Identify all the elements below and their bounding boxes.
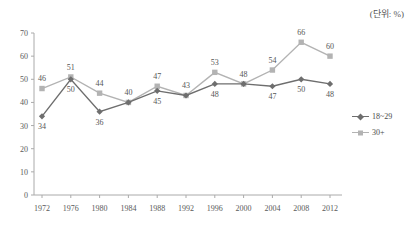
x-axis-tick-label: 1976 [63, 204, 79, 213]
data-point-label: 36 [96, 118, 104, 127]
data-point-marker[interactable] [269, 83, 275, 89]
x-axis-tick-label: 1972 [34, 204, 50, 213]
x-axis-tick-label: 2008 [293, 204, 309, 213]
x-axis-tick-label: 1988 [149, 204, 165, 213]
x-axis-tick-label: 2004 [264, 204, 280, 213]
y-axis-tick-label: 20 [20, 145, 28, 154]
y-axis-tick-label: 30 [20, 122, 28, 131]
data-point-label: 53 [211, 58, 219, 67]
y-axis-tick-label: 60 [20, 52, 28, 61]
y-axis-tick-label: 40 [20, 98, 28, 107]
data-point-marker[interactable] [39, 86, 44, 91]
data-point-label: 34 [38, 122, 46, 131]
legend-label-18-29: 18~29 [372, 112, 392, 121]
data-point-marker[interactable] [212, 70, 217, 75]
x-axis-tick-label: 1984 [120, 204, 136, 213]
line-chart: (단위: %) 01020304050607019721976198019841… [0, 0, 414, 229]
data-point-label: 40 [124, 88, 132, 97]
data-point-label: 43 [182, 81, 190, 90]
y-axis-tick-label: 10 [20, 168, 28, 177]
y-axis-tick-label: 0 [24, 191, 28, 200]
x-axis-tick-label: 1996 [207, 204, 223, 213]
x-axis-tick-label: 1980 [92, 204, 108, 213]
data-point-label: 54 [268, 56, 276, 65]
data-point-marker[interactable] [327, 53, 332, 58]
x-axis-tick-label: 2000 [236, 204, 252, 213]
data-point-label: 50 [297, 85, 305, 94]
y-axis-tick-label: 50 [20, 75, 28, 84]
data-point-label: 47 [268, 92, 276, 101]
data-point-label: 48 [211, 90, 219, 99]
legend-label-30-plus: 30+ [372, 128, 385, 137]
x-axis-tick-label: 1992 [178, 204, 194, 213]
data-point-marker[interactable] [270, 67, 275, 72]
data-point-label: 66 [297, 28, 305, 37]
x-axis-tick-label: 2012 [322, 204, 338, 213]
data-point-marker[interactable] [97, 90, 102, 95]
data-point-label: 44 [96, 79, 104, 88]
data-point-label: 48 [326, 90, 334, 99]
data-point-label: 46 [38, 74, 46, 83]
legend-swatch-30-plus [352, 128, 369, 137]
data-point-label: 60 [326, 42, 334, 51]
y-axis-tick-label: 70 [20, 29, 28, 38]
data-point-marker[interactable] [298, 76, 304, 82]
legend-swatch-18-29 [352, 112, 369, 121]
legend-item-30-plus[interactable]: 30+ [352, 128, 385, 137]
data-point-marker[interactable] [327, 81, 333, 87]
data-point-label: 48 [240, 70, 248, 79]
data-point-label: 51 [67, 63, 75, 72]
data-point-label: 45 [153, 97, 161, 106]
legend-item-18-29[interactable]: 18~29 [352, 112, 392, 121]
data-point-marker[interactable] [299, 40, 304, 45]
data-point-label: 50 [67, 85, 75, 94]
data-point-label: 47 [153, 72, 161, 81]
data-point-marker[interactable] [212, 81, 218, 87]
